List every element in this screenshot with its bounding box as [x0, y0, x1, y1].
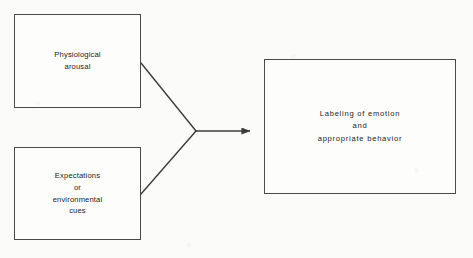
connector-arousal-to-junction — [141, 63, 196, 131]
connector-layer — [0, 0, 473, 258]
connector-cues-to-junction — [141, 131, 196, 194]
emotion-flow-diagram: Physiological arousal Expectations or en… — [0, 0, 473, 258]
